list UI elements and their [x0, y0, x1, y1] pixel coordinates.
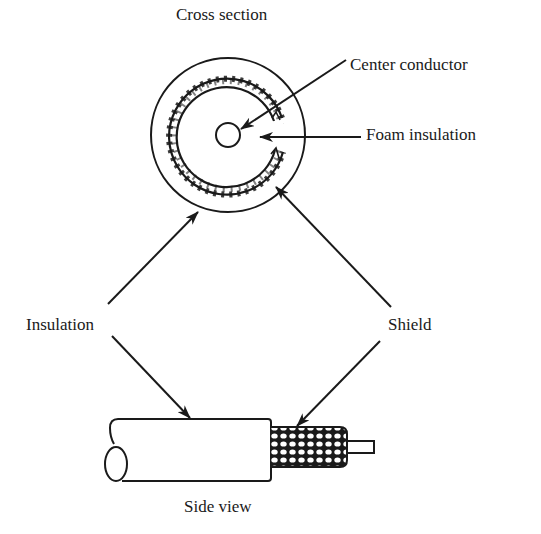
center-conductor-label: Center conductor: [350, 56, 468, 73]
shield-arrow-cross-section: [276, 187, 391, 307]
coax-cable-diagram: [0, 0, 541, 534]
shield-label: Shield: [388, 316, 431, 333]
center-conductor-arrow: [241, 60, 346, 129]
insulation-arrow-cross-section: [108, 212, 198, 304]
jacket-end-ellipse: [105, 447, 127, 481]
jacket: [110, 419, 271, 481]
shield-arrow-side-view: [297, 341, 380, 426]
insulation-label: Insulation: [26, 316, 94, 333]
cross-section-title: Cross section: [176, 6, 267, 23]
cross-section-view: [151, 58, 361, 212]
center-conductor-circle: [216, 123, 240, 147]
center-conductor-pin: [347, 441, 374, 453]
shield-braid: [270, 427, 347, 467]
side-view-title: Side view: [184, 498, 252, 515]
insulation-arrow-side-view: [112, 336, 190, 418]
side-view: [105, 419, 374, 481]
foam-insulation-label: Foam insulation: [366, 126, 476, 143]
